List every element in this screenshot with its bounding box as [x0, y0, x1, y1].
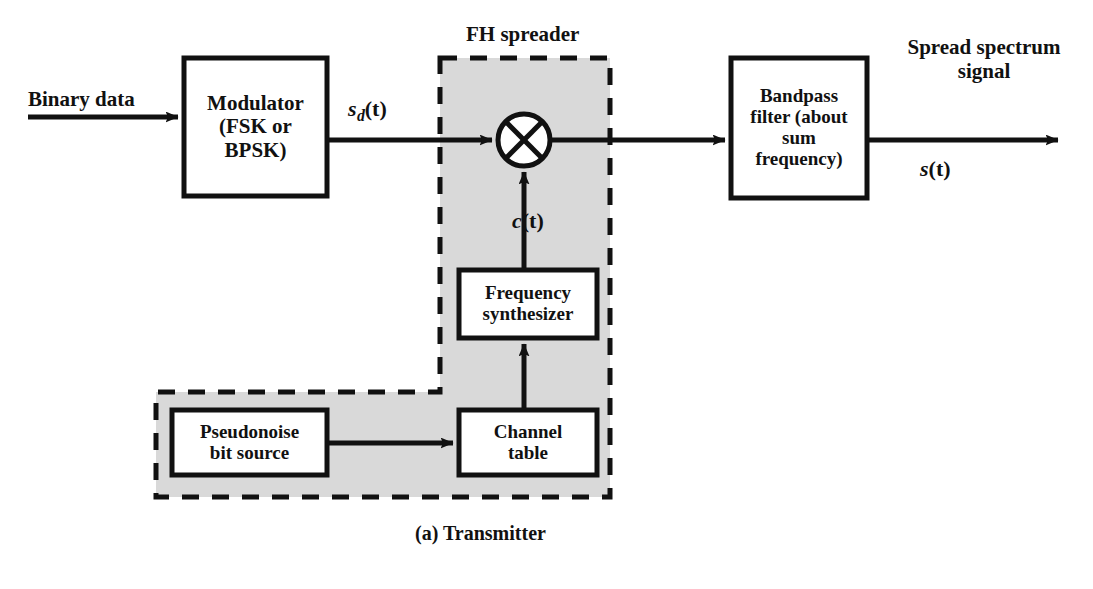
- st-signal-label: s(t): [920, 156, 951, 182]
- block-rect-channel-table: [459, 410, 597, 475]
- sd-subscript: d: [357, 107, 365, 124]
- ct-base: c: [512, 208, 522, 233]
- fh-spreader-title: FH spreader: [466, 22, 579, 47]
- block-rect-frequency-synthesizer: [459, 270, 597, 338]
- sd-signal-label: sd(t): [348, 96, 387, 125]
- st-base: s: [920, 156, 929, 181]
- block-rect-pseudonoise-bit-source: [172, 410, 327, 475]
- block-rect-modulator: [184, 58, 327, 196]
- figure-canvas: FH spreader Modulator (FSK or BPSK) Band…: [0, 0, 1093, 589]
- input-signal-label: Binary data: [28, 88, 135, 112]
- multiplier-symbol: [498, 114, 550, 166]
- output-signal-label: Spread spectrum signal: [884, 36, 1084, 83]
- ct-signal-label: c(t): [512, 208, 544, 234]
- sd-base: s: [348, 96, 357, 121]
- figure-caption: (a) Transmitter: [415, 522, 546, 545]
- st-tail: (t): [929, 156, 951, 181]
- diagram-vector-layer: [0, 0, 1093, 589]
- block-rect-bandpass-filter: [731, 58, 867, 198]
- sd-tail: (t): [365, 96, 387, 121]
- ct-tail: (t): [522, 208, 544, 233]
